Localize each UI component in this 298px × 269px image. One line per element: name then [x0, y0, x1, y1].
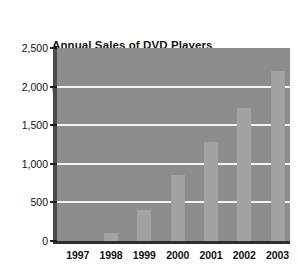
x-axis-label-1997: 1997: [63, 249, 93, 261]
bar-2001: [204, 142, 218, 241]
y-axis-line: [53, 47, 57, 242]
y-axis-label-500: 500: [2, 197, 48, 207]
y-tick-0: [50, 240, 57, 242]
bar-chart-figure: Annual Sales of DVD Players (000s) 05001…: [0, 0, 298, 269]
y-axis-label-1000: 1,000: [2, 159, 48, 169]
y-tick-2000: [50, 86, 57, 88]
x-axis-label-2000: 2000: [163, 249, 193, 261]
x-axis-label-2003: 2003: [263, 249, 293, 261]
x-axis-label-2001: 2001: [196, 249, 226, 261]
x-axis-label-2002: 2002: [229, 249, 259, 261]
bar-2000: [171, 175, 185, 241]
y-axis-label-2500: 2,500: [2, 43, 48, 53]
bar-2002: [237, 108, 251, 241]
y-axis-label-0: 0: [2, 236, 48, 246]
y-tick-2500: [50, 47, 57, 49]
y-axis-label-2000: 2,000: [2, 82, 48, 92]
bar-1999: [137, 210, 151, 241]
bar-1998: [104, 233, 118, 241]
y-tick-1500: [50, 124, 57, 126]
y-tick-500: [50, 201, 57, 203]
y-axis-label-1500: 1,500: [2, 120, 48, 130]
plot-area: [57, 48, 290, 241]
x-axis-label-1999: 1999: [129, 249, 159, 261]
bar-2003: [271, 71, 285, 241]
x-axis-line: [53, 241, 290, 244]
x-axis-label-1998: 1998: [96, 249, 126, 261]
bars-layer: [57, 48, 290, 241]
x-axis-labels: 1997199819992000200120022003: [57, 249, 290, 265]
y-tick-1000: [50, 163, 57, 165]
